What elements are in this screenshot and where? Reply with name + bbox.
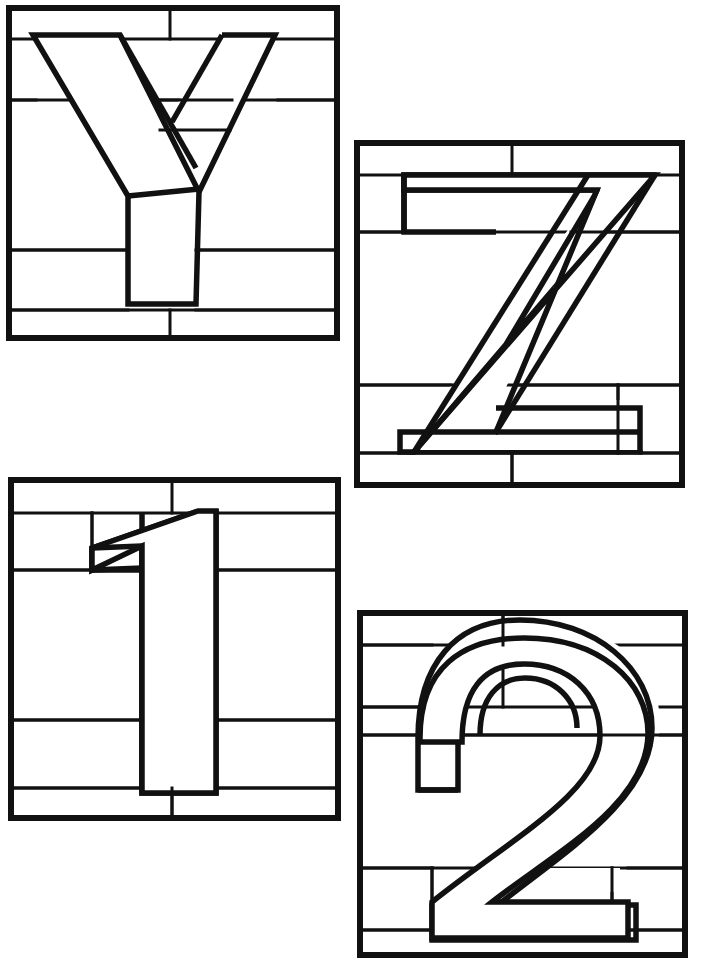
mosaic-sheet-canvas — [0, 0, 705, 970]
mosaic-sheet — [0, 0, 705, 970]
